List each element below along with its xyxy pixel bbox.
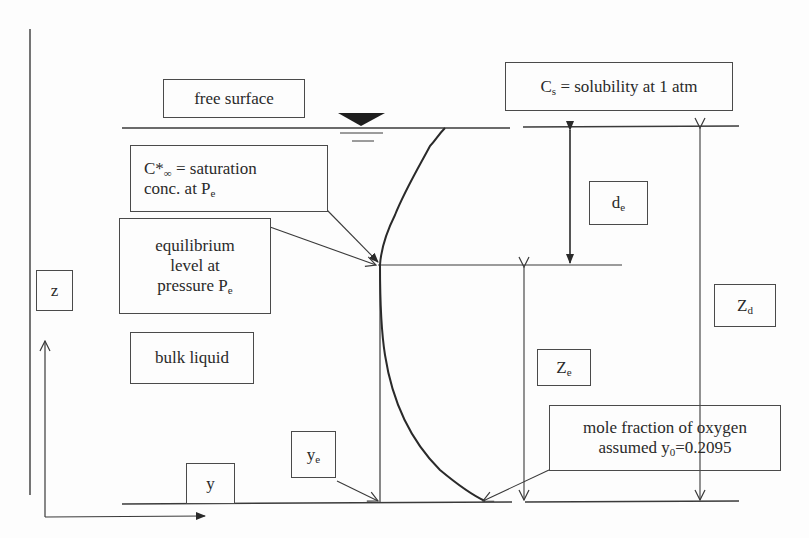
oxygen-saturation-diagram: free surface Cs = solubility at 1 atm C*… [0, 0, 809, 538]
mole-fraction-label: mole fraction of oxygen assumed y0=0.209… [549, 405, 781, 471]
c-star-pointer [327, 210, 378, 262]
bottom-line [122, 502, 512, 504]
ze-label: Ze [537, 349, 591, 386]
equilibrium-pointer [270, 227, 376, 265]
water-level-icon [338, 113, 385, 141]
solubility-label: Cs = solubility at 1 atm [505, 62, 733, 111]
de-label: de [589, 181, 648, 225]
zd-label: Zd [714, 284, 776, 327]
ye-label: ye [291, 431, 336, 478]
y-axis-arrow [45, 516, 205, 517]
mole-fraction-pointer [483, 470, 549, 501]
z-axis-label: z [36, 270, 73, 311]
saturation-concentration-label: C*∞ = saturation conc. at Pe [130, 145, 328, 212]
equilibrium-level-label: equilibrium level at pressure Pe [119, 218, 271, 314]
concentration-profile-curve [380, 128, 485, 501]
bottom-line-right [525, 501, 739, 502]
bulk-liquid-label: bulk liquid [130, 332, 254, 384]
free-surface-line-right [523, 126, 739, 127]
ye-pointer [337, 481, 378, 501]
free-surface-label: free surface [163, 79, 305, 118]
y-axis-label: y [186, 463, 235, 504]
